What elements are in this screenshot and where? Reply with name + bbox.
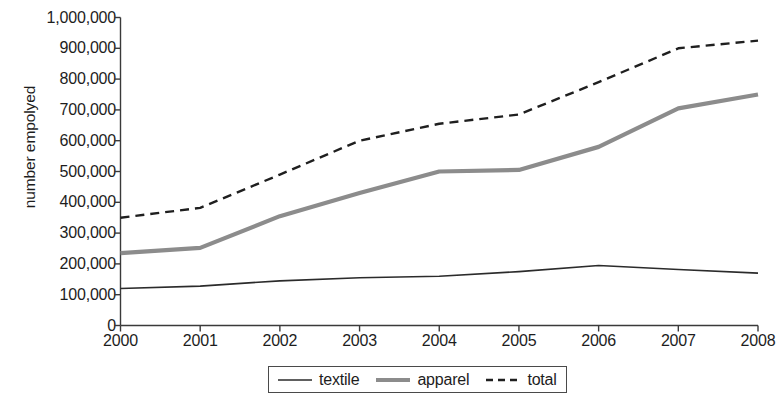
- x-axis-tick-labels: 200020012002200320042005200620072008: [0, 332, 766, 362]
- x-tick-label: 2003: [325, 332, 395, 350]
- series-line-total: [121, 41, 759, 218]
- series-line-textile: [121, 265, 759, 288]
- x-tick-label: 2005: [484, 332, 554, 350]
- legend-label: textile: [319, 371, 359, 389]
- legend-label: apparel: [417, 371, 469, 389]
- x-tick-label: 2006: [564, 332, 634, 350]
- x-tick-label: 2007: [643, 332, 713, 350]
- legend-entry-apparel[interactable]: apparel: [376, 367, 469, 392]
- legend-entry-total[interactable]: total: [486, 367, 556, 392]
- x-tick-label: 2001: [165, 332, 235, 350]
- x-tick-label: 2008: [723, 332, 780, 350]
- series-line-apparel: [121, 95, 759, 254]
- legend-swatch-total-icon: [486, 374, 520, 386]
- x-tick-label: 2002: [245, 332, 315, 350]
- x-tick-label: 2004: [404, 332, 474, 350]
- legend-entry-textile[interactable]: textile: [278, 367, 359, 392]
- legend-swatch-apparel-icon: [376, 374, 410, 386]
- legend-swatch-textile-icon: [278, 374, 312, 386]
- chart-legend: textileappareltotal: [268, 366, 567, 393]
- x-tick-label: 2000: [86, 332, 156, 350]
- legend-label: total: [527, 371, 556, 389]
